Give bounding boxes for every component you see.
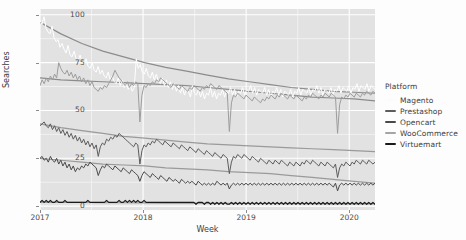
y-tick-mark — [36, 15, 39, 16]
y-axis-label: Searches — [2, 51, 11, 88]
plot-canvas — [40, 9, 375, 210]
x-tick-mark — [349, 210, 350, 213]
legend-swatch-icon — [385, 132, 396, 134]
legend-item-magento[interactable]: Magento — [385, 95, 465, 106]
legend-item-label: WooCommerce — [400, 129, 458, 138]
series-trend-magento — [40, 22, 375, 93]
x-tick-mark — [246, 210, 247, 213]
legend: Platform MagentoPrestashopOpencartWooCom… — [385, 82, 465, 150]
y-tick-label: 25 — [75, 153, 85, 162]
y-tick-label: 100 — [70, 10, 85, 19]
x-tick-mark — [143, 210, 144, 213]
legend-swatch-icon — [385, 121, 396, 123]
plot-panel — [40, 9, 375, 210]
x-tick-label: 2017 — [20, 213, 60, 222]
legend-item-opencart[interactable]: Opencart — [385, 117, 465, 128]
legend-item-virtuemart[interactable]: Virtuemart — [385, 139, 465, 150]
legend-item-label: Prestashop — [400, 107, 442, 116]
x-tick-label: 2018 — [123, 213, 163, 222]
legend-items: MagentoPrestashopOpencartWooCommerceVirt… — [385, 95, 465, 150]
x-tick-label: 2020 — [329, 213, 369, 222]
legend-item-prestashop[interactable]: Prestashop — [385, 106, 465, 117]
x-axis-label: Week — [40, 225, 375, 234]
chart-screenshot: 0255075100 Searches 2017201820192020 Wee… — [0, 0, 466, 240]
y-tick-mark — [36, 158, 39, 159]
legend-swatch-icon — [385, 110, 396, 112]
y-tick-mark — [36, 110, 39, 111]
y-tick-label: 0 — [80, 201, 85, 210]
legend-item-label: Opencart — [400, 118, 436, 127]
legend-item-label: Virtuemart — [400, 140, 441, 149]
y-tick-mark — [36, 63, 39, 64]
series-trend-prestashop — [40, 124, 375, 152]
y-tick-label: 75 — [75, 58, 85, 67]
x-tick-mark — [40, 210, 41, 213]
y-tick-label: 50 — [75, 105, 85, 114]
legend-item-woocommerce[interactable]: WooCommerce — [385, 128, 465, 139]
y-tick-mark — [36, 206, 39, 207]
legend-swatch-icon — [385, 143, 396, 145]
legend-swatch-icon — [385, 99, 396, 101]
series-line-opencart — [40, 156, 375, 190]
legend-title: Platform — [385, 82, 465, 91]
legend-item-label: Magento — [400, 96, 433, 105]
x-tick-label: 2019 — [226, 213, 266, 222]
